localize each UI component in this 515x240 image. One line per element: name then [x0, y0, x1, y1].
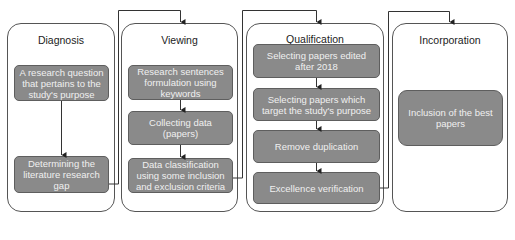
- step-box: Research sentences formulation using key…: [128, 65, 233, 100]
- step-box: Selecting papers which target the study'…: [253, 88, 380, 121]
- stage-title: Incorporation: [393, 34, 507, 46]
- step-box: A research question that pertains to the…: [14, 65, 109, 101]
- step-box: Determining the literature research gap: [14, 156, 109, 193]
- stage-title: Diagnosis: [8, 34, 114, 46]
- step-box: Data classification using some inclusion…: [128, 158, 233, 193]
- step-box: Excellence verification: [253, 172, 380, 204]
- step-box: Collecting data (papers): [128, 111, 233, 145]
- step-box: Inclusion of the best papers: [398, 90, 503, 146]
- step-box: Remove duplication: [253, 130, 380, 163]
- stage-title: Viewing: [122, 34, 237, 46]
- step-box: Selecting papers edited after 2018: [253, 44, 380, 78]
